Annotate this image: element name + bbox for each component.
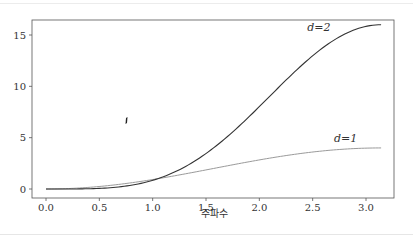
curve-label: d=2 <box>307 21 330 34</box>
x-tick-label: 2.5 <box>305 202 321 213</box>
x-tick-label: 2.0 <box>251 202 267 213</box>
curves <box>46 25 381 189</box>
line-chart: 051015 0.00.51.01.52.02.53.0 d=2d=1 주파수 <box>0 0 413 239</box>
x-tick-label: 1.0 <box>145 202 161 213</box>
plot-frame <box>32 20 394 198</box>
y-tick-label: 10 <box>13 81 26 92</box>
x-tick-label: 0.5 <box>91 202 107 213</box>
y-tick-label: 15 <box>13 30 26 41</box>
series-line-d-2 <box>46 25 381 189</box>
x-tick-label: 3.0 <box>358 202 374 213</box>
curve-label: d=1 <box>334 132 357 145</box>
curve-labels: d=2d=1 <box>307 21 357 145</box>
series-line-d-1 <box>46 148 381 189</box>
y-tick-label: 0 <box>20 184 26 195</box>
y-axis: 051015 <box>13 30 32 195</box>
y-tick-label: 5 <box>20 132 26 143</box>
x-axis-label: 주파수 <box>201 208 228 219</box>
x-tick-label: 0.0 <box>38 202 54 213</box>
stray-mark <box>126 117 128 124</box>
